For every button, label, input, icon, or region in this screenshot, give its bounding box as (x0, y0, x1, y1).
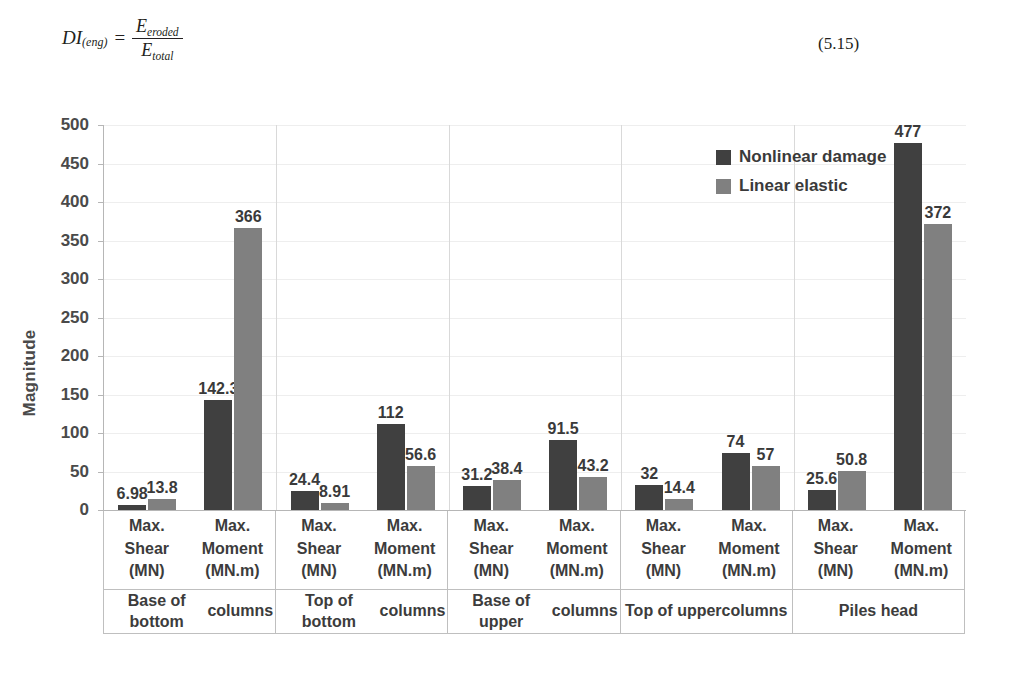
bar (493, 480, 521, 510)
y-axis-tick-label: 350 (29, 231, 89, 251)
subcategory-label: Max.Moment(MN.m) (190, 511, 276, 589)
bar (377, 424, 405, 510)
denominator-subscript: total (152, 50, 173, 62)
y-axis-tick-label: 500 (29, 115, 89, 135)
fraction-numerator: Eeroded (132, 15, 183, 38)
group-label: Base of uppercolumns (448, 590, 619, 633)
bar (894, 143, 922, 510)
legend-item-nonlinear-damage: Nonlinear damage (716, 147, 886, 167)
y-axis-tick-labels: 500450400350300250200150100500 (27, 125, 89, 510)
subcategory-label: Max.Shear(MN) (104, 511, 190, 589)
bar-value-label: 14.4 (644, 479, 714, 497)
subcategory-label: Max.Shear(MN) (793, 511, 879, 589)
bar-value-label: 8.91 (300, 483, 370, 501)
equation-block: DI(eng) = Eeroded Etotal (5.15) (0, 0, 1015, 105)
plot-area: 6.9813.8142.336624.48.9111256.631.238.49… (103, 125, 966, 511)
y-axis-tick-label: 250 (29, 308, 89, 328)
bar (579, 477, 607, 510)
bar (118, 505, 146, 510)
bar-value-label: 57 (731, 446, 801, 464)
y-axis-tick-label: 200 (29, 346, 89, 366)
subcategory-row: Max.Shear(MN)Max.Moment(MN.m) (104, 511, 275, 590)
group-label: Top of uppercolumns (621, 590, 792, 633)
subcategory-row: Max.Shear(MN)Max.Moment(MN.m) (276, 511, 447, 590)
y-axis-tick-label: 50 (29, 462, 89, 482)
subcategory-label: Max.Shear(MN) (621, 511, 707, 589)
bar (838, 471, 866, 510)
bar-value-label: 112 (356, 404, 426, 422)
group-label: Piles head (793, 590, 964, 633)
group-label: Base of bottomcolumns (104, 590, 275, 633)
bar-value-label: 366 (213, 208, 283, 226)
legend-label: Linear elastic (739, 176, 848, 196)
denominator-variable: E (141, 40, 152, 60)
category-group: Max.Shear(MN)Max.Moment(MN.m)Base of upp… (448, 511, 620, 633)
y-axis-tick-label: 100 (29, 423, 89, 443)
numerator-subscript: eroded (147, 26, 179, 38)
bar (321, 503, 349, 510)
bar-value-label: 13.8 (127, 479, 197, 497)
y-axis-tick-label: 450 (29, 154, 89, 174)
bar (924, 224, 952, 510)
subcategory-label: Max.Moment(MN.m) (534, 511, 620, 589)
y-axis-tick-label: 0 (29, 500, 89, 520)
y-axis-tick-label: 150 (29, 385, 89, 405)
equation-lhs: DI (62, 27, 82, 49)
subcategory-label: Max.Shear(MN) (276, 511, 362, 589)
y-axis-tick-label: 400 (29, 192, 89, 212)
bar (808, 490, 836, 510)
bar-value-label: 372 (903, 204, 973, 222)
category-group: Max.Shear(MN)Max.Moment(MN.m)Base of bot… (104, 511, 276, 633)
category-group: Max.Shear(MN)Max.Moment(MN.m)Top of bott… (276, 511, 448, 633)
equation-formula: DI(eng) = Eeroded Etotal (62, 14, 183, 61)
bar (148, 499, 176, 510)
equals-sign: = (114, 27, 125, 49)
bar-value-label: 38.4 (472, 460, 542, 478)
equation-number: (5.15) (818, 34, 859, 54)
bar (407, 466, 435, 510)
x-axis-category-table: Max.Shear(MN)Max.Moment(MN.m)Base of bot… (103, 511, 965, 634)
bar (204, 400, 232, 510)
subcategory-row: Max.Shear(MN)Max.Moment(MN.m) (621, 511, 792, 590)
bar (752, 466, 780, 510)
legend-item-linear-elastic: Linear elastic (716, 176, 886, 196)
y-axis-tick-label: 300 (29, 269, 89, 289)
bar (549, 440, 577, 510)
legend-swatch-icon (716, 150, 731, 165)
equation-lhs-subscript: (eng) (82, 35, 107, 50)
subcategory-label: Max.Shear(MN) (448, 511, 534, 589)
group-label: Top of bottomcolumns (276, 590, 447, 633)
subcategory-row: Max.Shear(MN)Max.Moment(MN.m) (793, 511, 964, 590)
bar (665, 499, 693, 510)
category-group: Max.Shear(MN)Max.Moment(MN.m)Top of uppe… (621, 511, 793, 633)
bar (463, 486, 491, 510)
bar-value-label: 56.6 (386, 446, 456, 464)
legend-label: Nonlinear damage (739, 147, 886, 167)
subcategory-label: Max.Moment(MN.m) (362, 511, 448, 589)
bar-chart-figure: Magnitude 500450400350300250200150100500… (0, 108, 1015, 689)
equation-fraction: Eeroded Etotal (132, 15, 183, 62)
chart-legend: Nonlinear damage Linear elastic (716, 147, 886, 205)
bar (234, 228, 262, 510)
subcategory-label: Max.Moment(MN.m) (878, 511, 964, 589)
fraction-denominator: Etotal (137, 39, 177, 62)
bar-value-label: 50.8 (817, 451, 887, 469)
bar-value-label: 477 (873, 123, 943, 141)
category-group: Max.Shear(MN)Max.Moment(MN.m)Piles head (793, 511, 964, 633)
legend-swatch-icon (716, 179, 731, 194)
subcategory-row: Max.Shear(MN)Max.Moment(MN.m) (448, 511, 619, 590)
numerator-variable: E (136, 16, 147, 36)
bar-value-label: 91.5 (528, 420, 598, 438)
subcategory-label: Max.Moment(MN.m) (706, 511, 792, 589)
